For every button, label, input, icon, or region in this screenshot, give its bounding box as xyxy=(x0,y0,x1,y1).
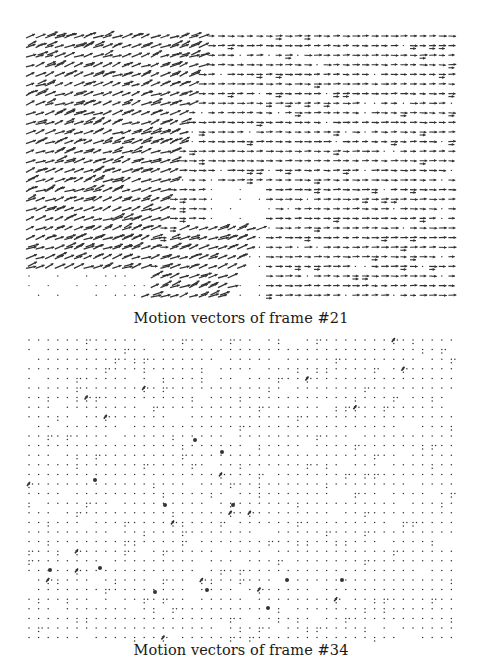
motion-vector-field-frame-34 xyxy=(0,330,482,642)
motion-vector-field-frame-21 xyxy=(0,0,482,310)
motion-vector-panel-frame-34: Motion vectors of frame #34 xyxy=(0,330,482,665)
motion-vector-panel-frame-21: Motion vectors of frame #21 xyxy=(0,0,482,330)
figure-caption: Motion vectors of frame #34 xyxy=(0,642,482,658)
figure-caption: Motion vectors of frame #21 xyxy=(0,310,482,326)
